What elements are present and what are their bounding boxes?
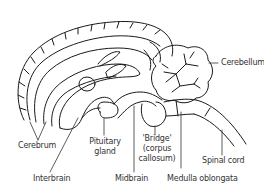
pituitary-shape xyxy=(98,102,118,118)
pons-shape xyxy=(141,102,166,127)
label-pituitary-line1: Pituitary xyxy=(88,137,122,147)
spinal-cord-shape xyxy=(194,100,246,146)
label-medulla-oblongata: Medulla oblongata xyxy=(167,174,238,184)
cerebrum-outline xyxy=(18,22,173,121)
cerebrum-leader xyxy=(30,122,46,140)
label-pituitary-gland: Pituitary gland xyxy=(88,137,122,157)
label-pituitary-line2: gland xyxy=(88,147,122,157)
label-bridge-line1: 'Bridge' xyxy=(137,134,177,144)
label-cerebellum: Cerebellum xyxy=(221,58,264,68)
label-bridge-line2: (corpus xyxy=(137,144,177,154)
cerebellum-shape xyxy=(152,45,213,103)
label-midbrain: Midbrain xyxy=(115,174,148,184)
label-bridge: 'Bridge' (corpus callosum) xyxy=(137,134,177,164)
label-spinal-cord: Spinal cord xyxy=(202,156,244,166)
label-bridge-line3: callosum) xyxy=(137,154,177,164)
label-interbrain: Interbrain xyxy=(33,174,70,184)
brain-diagram: Cerebellum Cerebrum Pituitary gland 'Bri… xyxy=(0,0,264,188)
label-cerebrum: Cerebrum xyxy=(18,141,56,151)
